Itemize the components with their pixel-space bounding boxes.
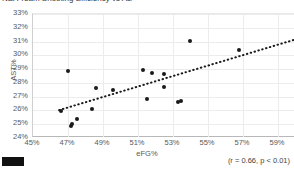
correlation-annotation: (r = 0.66, p < 0.01)	[228, 156, 290, 165]
legend-swatch	[2, 157, 24, 166]
x-gridline	[208, 14, 209, 137]
x-gridline	[243, 14, 244, 137]
data-point	[111, 88, 115, 92]
x-axis-tick-label: 53%	[152, 139, 192, 147]
x-gridline	[173, 14, 174, 137]
y-axis-tick-label: 27%	[0, 92, 28, 100]
y-axis-tick-label: 30%	[0, 50, 28, 58]
y-axis-tick-label: 33%	[0, 9, 28, 17]
y-gridline	[33, 42, 294, 43]
y-axis-tick-label: 28%	[0, 78, 28, 86]
y-gridline	[33, 14, 294, 15]
y-gridline	[33, 55, 294, 56]
data-point	[66, 69, 70, 73]
chart-title-text: NBA Team Shooting Efficiency vs Assist R…	[2, 0, 132, 3]
x-axis-tick-label: 45%	[12, 139, 52, 147]
x-axis-tick-label: 51%	[117, 139, 157, 147]
x-gridline	[278, 14, 279, 137]
data-point	[150, 71, 154, 75]
x-axis-tick-label: 47%	[47, 139, 87, 147]
scatter-chart-figure: NBA Team Shooting Efficiency vs Assist R…	[0, 0, 294, 169]
x-gridline	[68, 14, 69, 137]
data-point	[162, 85, 166, 89]
data-point	[141, 68, 145, 72]
x-gridline	[103, 14, 104, 137]
y-axis-tick-label: 31%	[0, 37, 28, 45]
x-axis-tick-label: 57%	[222, 139, 262, 147]
y-axis-tick-label: 29%	[0, 64, 28, 72]
x-axis-tick-label: 59%	[257, 139, 294, 147]
data-point	[70, 122, 74, 126]
y-gridline	[33, 97, 294, 98]
y-axis-tick-label: 25%	[0, 119, 28, 127]
y-gridline	[33, 83, 294, 84]
chart-title-cutoff: NBA Team Shooting Efficiency vs Assist R…	[2, 0, 132, 4]
data-point	[162, 72, 166, 76]
data-point	[237, 48, 241, 52]
x-axis-tick-label: 55%	[187, 139, 227, 147]
x-gridline	[138, 14, 139, 137]
y-gridline	[33, 69, 294, 70]
y-gridline	[33, 28, 294, 29]
data-point	[145, 97, 149, 101]
data-point	[94, 86, 98, 90]
y-gridline	[33, 110, 294, 111]
data-point	[75, 117, 79, 121]
x-axis-tick-label: 49%	[82, 139, 122, 147]
y-axis-tick-label: 32%	[0, 23, 28, 31]
data-point	[59, 109, 63, 113]
plot-area	[32, 13, 294, 137]
y-axis-tick-label: 26%	[0, 105, 28, 113]
